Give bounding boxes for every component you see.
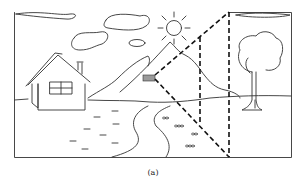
horizon — [15, 96, 292, 103]
cloud-icon — [16, 13, 76, 20]
water-ripples — [70, 111, 119, 149]
river — [112, 106, 148, 157]
cloud-icon — [236, 13, 290, 17]
mountain-left — [88, 56, 150, 98]
cloud-icon — [104, 14, 149, 30]
mountain-main — [120, 42, 240, 98]
camera-icon — [143, 75, 155, 81]
landscape-diagram — [0, 0, 306, 185]
scene-frame — [15, 13, 292, 158]
figure-caption: (a) — [0, 168, 306, 177]
stepping-stones — [163, 117, 198, 147]
sun-icon — [158, 12, 190, 44]
cloud-icon — [129, 40, 145, 47]
tree-icon — [239, 32, 283, 110]
river — [154, 106, 170, 157]
cloud-icon — [72, 32, 108, 50]
frustum-lines — [155, 12, 229, 157]
house — [26, 53, 90, 110]
